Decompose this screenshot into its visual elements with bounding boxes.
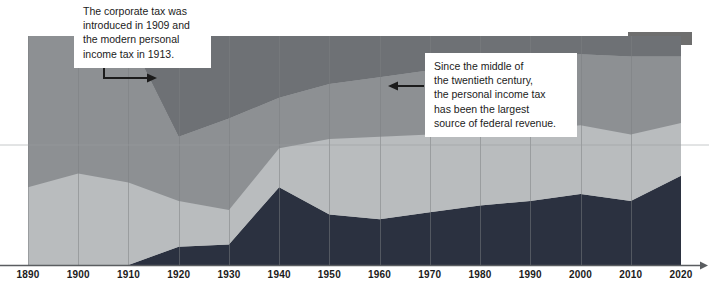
x-tick-label-1970: 1970 — [418, 269, 441, 280]
x-tick-label-1950: 1950 — [318, 269, 341, 280]
callout-1-line-2: introduced in 1909 and — [83, 18, 202, 32]
area-layers — [28, 34, 682, 265]
annotation-callout-income-tax: Since the middle ofthe twentieth century… — [425, 53, 577, 137]
x-tick-label-1940: 1940 — [268, 269, 291, 280]
x-tick-label-1910: 1910 — [117, 269, 140, 280]
callout-1-line-4: income tax in 1913. — [83, 47, 202, 61]
x-tick-label-1920: 1920 — [167, 269, 190, 280]
x-axis-labels: 1890190019101920193019401950196019701980… — [0, 269, 709, 291]
callout-1-line-1: The corporate tax was — [83, 4, 202, 18]
callout-2-line-2: the twentieth century, — [434, 73, 568, 87]
x-tick-label-2010: 2010 — [619, 269, 642, 280]
callout-2-line-4: has been the largest — [434, 102, 568, 116]
x-tick-label-2020: 2020 — [669, 269, 692, 280]
callout-2-line-1: Since the middle of — [434, 59, 568, 73]
x-tick-label-2000: 2000 — [569, 269, 592, 280]
chart-screenshot: 1890190019101920193019401950196019701980… — [0, 0, 709, 299]
x-tick-label-1890: 1890 — [16, 269, 39, 280]
callout-2-line-5: source of federal revenue. — [434, 116, 568, 130]
callout-1-line-3: the modern personal — [83, 32, 202, 46]
x-tick-label-1930: 1930 — [217, 269, 240, 280]
x-tick-label-1980: 1980 — [469, 269, 492, 280]
x-tick-label-1900: 1900 — [67, 269, 90, 280]
callout-2-line-3: the personal income tax — [434, 87, 568, 101]
annotation-callout-corporate-tax: The corporate tax wasintroduced in 1909 … — [74, 0, 211, 68]
x-tick-label-1990: 1990 — [519, 269, 542, 280]
x-tick-label-1960: 1960 — [368, 269, 391, 280]
